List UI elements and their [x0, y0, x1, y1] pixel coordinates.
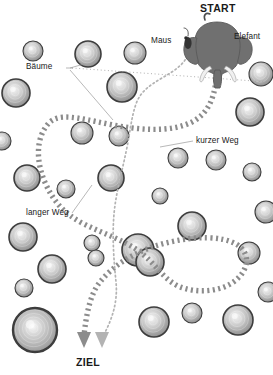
- mouse-ear: [184, 36, 188, 40]
- mouse-label: Maus: [151, 37, 171, 45]
- mouse-figure: [184, 28, 192, 49]
- trees-label: Bäume: [26, 63, 52, 71]
- start-label: START: [200, 3, 236, 14]
- elephant-label: Elefant: [234, 33, 260, 41]
- short-path-label: kurzer Weg: [196, 137, 239, 145]
- forest-path-diagram: START Elefant Maus Bäume kurzer Weg lang…: [0, 0, 273, 375]
- goal-label: ZIEL: [76, 357, 100, 368]
- long-path-label: langer Weg: [26, 209, 69, 217]
- mouse-tail: [184, 28, 188, 36]
- mouse-layer: [0, 0, 273, 375]
